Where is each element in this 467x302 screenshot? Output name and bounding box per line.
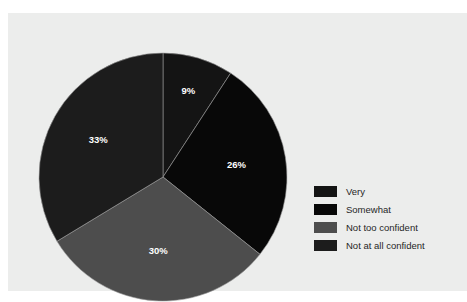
pie-value-label: 33% [89,134,109,145]
legend-swatch-icon [314,204,337,215]
pie-value-label: 30% [149,245,169,256]
pie-value-label: 9% [182,85,196,96]
legend-swatch-icon [314,222,337,233]
legend-item-label: Not too confident [346,222,418,233]
pie-plot-area: 9%26%30%33% [38,52,288,302]
legend-item[interactable]: Not at all confident [314,236,464,254]
pie-value-label: 26% [227,159,247,170]
chart-panel: 9%26%30%33% VerySomewhatNot too confiden… [8,13,467,291]
legend-item-label: Somewhat [346,204,391,215]
legend-item[interactable]: Not too confident [314,218,464,236]
legend-swatch-icon [314,240,337,251]
pie-svg: 9%26%30%33% [38,52,288,302]
legend-item-label: Very [346,186,365,197]
legend-item[interactable]: Somewhat [314,200,464,218]
chart-legend: VerySomewhatNot too confidentNot at all … [314,182,464,254]
pie-slice-group [39,53,287,301]
legend-item-label: Not at all confident [346,240,425,251]
legend-item[interactable]: Very [314,182,464,200]
legend-swatch-icon [314,186,337,197]
